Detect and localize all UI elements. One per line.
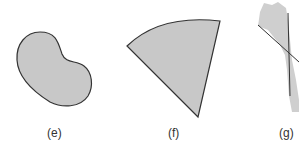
figure-canvas <box>0 0 299 150</box>
figure-label-g: (g) <box>279 126 294 140</box>
figure-label-e: (e) <box>47 126 62 140</box>
sector-shape <box>127 20 220 117</box>
figure-label-f: (f) <box>168 126 179 140</box>
kidney-shape <box>17 32 92 106</box>
